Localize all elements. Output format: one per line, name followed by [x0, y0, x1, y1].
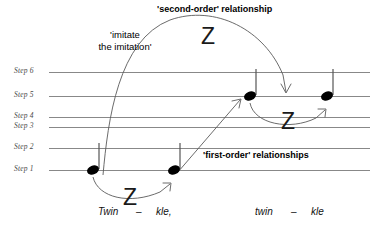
- annotation-first-order: 'first-order' relationships: [203, 150, 309, 160]
- lyric-twin-2: twin: [255, 206, 273, 217]
- lyric-dash-1: –: [136, 206, 142, 217]
- note-3: [243, 69, 258, 102]
- step-label-6: Step 6: [14, 66, 34, 75]
- imitation-diagonal-arrow: [178, 99, 241, 172]
- diagram-canvas: Step 6 Step 5 Step 4 Step 3 Step 2 Step …: [0, 0, 388, 234]
- z-first-order-left-icon: Z: [123, 186, 137, 209]
- lyric-dash-2: –: [291, 206, 297, 217]
- lyric-kle-1: kle,: [156, 206, 172, 217]
- z-second-order-icon: Z: [201, 25, 215, 48]
- annotation-imitate-line-1: 'imitate: [87, 29, 163, 41]
- annotation-second-order: 'second-order' relationship: [157, 4, 272, 14]
- annotation-imitate-line-2: the imitation': [87, 41, 163, 53]
- step-label-5: Step 5: [14, 90, 34, 99]
- note-4: [320, 69, 335, 102]
- step-label-4: Step 4: [14, 111, 34, 120]
- step-label-1: Step 1: [14, 164, 34, 173]
- diagram-vector-layer: [0, 0, 388, 234]
- step-label-3: Step 3: [14, 121, 34, 130]
- z-first-order-right-icon: Z: [281, 110, 295, 133]
- lyric-twin-1: Twin: [98, 206, 118, 217]
- step-label-2: Step 2: [14, 142, 34, 151]
- annotation-imitate: 'imitate the imitation': [87, 29, 163, 53]
- lyric-kle-2: kle: [311, 206, 324, 217]
